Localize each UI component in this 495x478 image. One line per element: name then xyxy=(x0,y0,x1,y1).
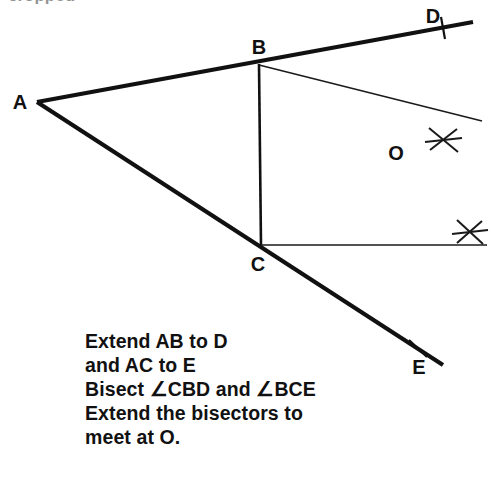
vertex-label-d: D xyxy=(426,5,440,27)
caption-line-3: Bisect ∠CBD and ∠BCE xyxy=(85,378,316,400)
vertex-label-o: O xyxy=(388,142,404,164)
vertex-label-b: B xyxy=(252,36,266,58)
vertex-label-c: C xyxy=(251,253,265,275)
ray-ac-to-e xyxy=(37,102,443,365)
caption-block: Extend AB to D and AC to E Bisect ∠CBD a… xyxy=(85,330,316,448)
tick-mark-at-e xyxy=(409,340,427,357)
geometry-diagram: A B C D E O Extend AB to D and AC to E B… xyxy=(0,0,495,478)
bisector-from-b xyxy=(259,65,482,121)
vertex-label-a: A xyxy=(13,91,27,113)
caption-line-4: Extend the bisectors to xyxy=(85,402,303,424)
ray-ab-to-d xyxy=(37,22,473,102)
caption-line-1: Extend AB to D xyxy=(85,330,228,352)
arc-cross-upper-icon xyxy=(425,128,462,152)
arc-cross-lower-icon xyxy=(452,220,488,244)
vertex-label-e: E xyxy=(412,356,425,378)
segment-bc xyxy=(259,64,261,246)
caption-line-5: meet at O. xyxy=(85,426,180,448)
caption-line-2: and AC to E xyxy=(85,354,196,376)
